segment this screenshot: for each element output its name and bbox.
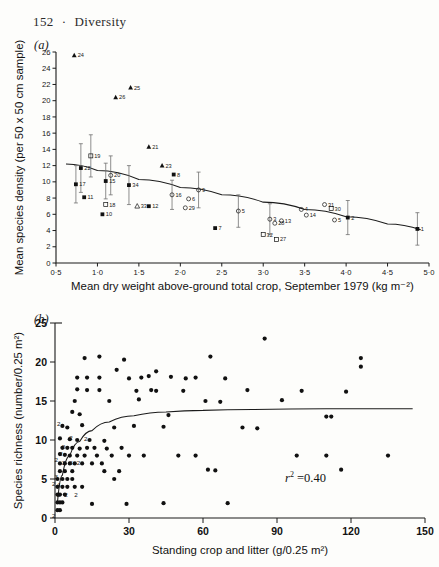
data-point-b <box>75 387 79 391</box>
data-point-b <box>115 368 119 372</box>
x-axis-title-b: Standing crop and litter (g/0.25 m²) <box>152 544 328 556</box>
data-point-b <box>102 439 106 443</box>
data-point-b <box>60 500 64 504</box>
multiplicity-label: 2 <box>54 456 58 463</box>
data-point-b <box>112 477 116 481</box>
data-point-b <box>85 388 89 392</box>
data-point-b <box>85 376 89 380</box>
data-point-b <box>70 446 74 450</box>
panel-b-group: 051015202503060901201502222223323242222S… <box>12 317 434 556</box>
data-point-b <box>100 461 104 465</box>
data-point-b <box>95 454 99 458</box>
multiplicity-label: 2 <box>52 512 56 519</box>
data-point-b <box>329 415 333 419</box>
y-tick-label-b: 15 <box>35 395 47 407</box>
x-tick-label-b: 150 <box>416 525 434 537</box>
r-squared-annotation: r2 =0.40 <box>285 470 326 486</box>
data-point-b <box>344 390 348 394</box>
data-point-b <box>161 425 165 429</box>
data-point-b <box>194 376 198 380</box>
data-point-b <box>206 468 210 472</box>
data-point-b <box>65 425 69 429</box>
data-point-b <box>147 374 151 378</box>
data-point-b <box>60 424 64 428</box>
multiplicity-label: 3 <box>62 459 66 466</box>
data-point-b <box>203 399 207 403</box>
data-point-b <box>63 453 67 457</box>
data-point-b <box>70 410 74 414</box>
data-point-b <box>208 354 212 358</box>
data-point-b <box>245 388 249 392</box>
chart-panel-b: 051015202503060901201502222223323242222S… <box>0 0 439 567</box>
data-point-b <box>85 446 89 450</box>
data-point-b <box>223 376 227 380</box>
data-point-b <box>324 415 328 419</box>
data-point-b <box>295 454 299 458</box>
multiplicity-label: 2 <box>64 491 68 498</box>
data-point-b <box>255 426 259 430</box>
x-tick-label-b: 60 <box>197 525 209 537</box>
data-point-b <box>80 423 84 427</box>
data-point-b <box>78 412 82 416</box>
data-point-b <box>213 468 217 472</box>
multiplicity-label: 2 <box>57 420 61 427</box>
data-point-b <box>386 454 390 458</box>
data-point-b <box>110 454 114 458</box>
multiplicity-label: 2 <box>52 480 56 487</box>
data-point-b <box>78 446 82 450</box>
r-squared-value: 0.40 <box>304 471 326 485</box>
data-point-b <box>112 425 116 429</box>
data-point-b <box>58 469 62 473</box>
y-tick-label-b: 25 <box>35 317 47 329</box>
y-tick-label-b: 0 <box>41 512 47 524</box>
multiplicity-label: 2 <box>74 491 78 498</box>
x-tick-label-b: 90 <box>271 525 283 537</box>
data-point-b <box>73 485 77 489</box>
data-point-b <box>102 469 106 473</box>
data-point-b <box>70 469 74 473</box>
multiplicity-label: 2 <box>69 434 73 441</box>
x-tick-label-b: 30 <box>123 525 135 537</box>
data-point-b <box>127 376 131 380</box>
data-point-b <box>97 376 101 380</box>
data-point-b <box>226 501 230 505</box>
data-point-b <box>75 454 79 458</box>
data-point-b <box>137 397 141 401</box>
data-point-b <box>218 400 222 404</box>
data-point-b <box>169 375 173 379</box>
multiplicity-label: 2 <box>59 450 63 457</box>
data-point-b <box>75 438 79 442</box>
multiplicity-label: 2 <box>57 491 61 498</box>
data-point-b <box>90 502 94 506</box>
data-point-b <box>80 485 84 489</box>
data-point-b <box>142 454 146 458</box>
x-tick-label-b: 120 <box>342 525 360 537</box>
data-point-b <box>124 502 128 506</box>
data-point-b <box>300 389 304 393</box>
data-point-b <box>117 469 121 473</box>
x-tick-label-b: 0 <box>52 525 58 537</box>
multiplicity-label: 2 <box>62 443 66 450</box>
data-point-b <box>176 454 180 458</box>
multiplicity-label: 4 <box>57 481 61 488</box>
data-point-b <box>70 477 74 481</box>
data-point-b <box>120 446 124 450</box>
data-point-b <box>339 468 343 472</box>
data-point-b <box>65 477 69 481</box>
data-point-b <box>184 376 188 380</box>
data-point-b <box>154 369 158 373</box>
data-point-b <box>154 389 158 393</box>
data-point-b <box>63 469 67 473</box>
data-point-b <box>90 461 94 465</box>
data-point-b <box>324 454 328 458</box>
data-point-b <box>280 398 284 402</box>
data-point-b <box>83 454 87 458</box>
data-point-b <box>132 424 136 428</box>
data-point-b <box>127 454 131 458</box>
data-point-b <box>58 508 62 512</box>
y-axis-title-b: Species richness (number/0.25 m²) <box>12 332 24 509</box>
data-point-b <box>359 365 363 369</box>
data-point-b <box>73 399 77 403</box>
data-point-b <box>194 454 198 458</box>
data-point-b <box>166 413 170 417</box>
